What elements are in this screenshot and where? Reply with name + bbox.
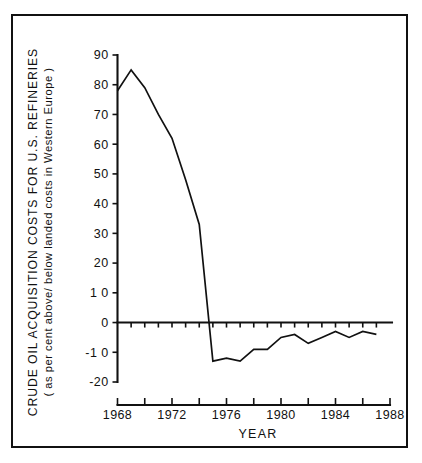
axes-group — [118, 55, 393, 405]
x-tick-group: 196819721976198019841988 — [103, 323, 405, 422]
y-tick-label: 90 — [94, 48, 109, 62]
x-tick-label: 1980 — [266, 408, 295, 422]
chart-canvas: CRUDE OIL ACQUISITION COSTS FOR U.S. REF… — [0, 0, 422, 463]
y-tick-label: 0 — [101, 316, 108, 330]
y-tick-label: 30 — [94, 227, 109, 241]
y-tick-label: 50 — [94, 167, 109, 181]
y-axis-label-line1: CRUDE OIL ACQUISITION COSTS FOR U.S. REF… — [26, 48, 40, 416]
x-tick-label: 1984 — [321, 408, 350, 422]
y-tick-group: 90807060504030201 00-1 0-20 — [85, 48, 117, 389]
y-tick-label: -1 0 — [85, 346, 108, 360]
data-series-group — [118, 70, 377, 361]
x-tick-label: 1976 — [212, 408, 241, 422]
y-tick-label: 60 — [94, 138, 109, 152]
x-axis-label: YEAR — [239, 427, 278, 441]
data-series-line — [118, 70, 377, 361]
y-tick-label: 80 — [94, 78, 109, 92]
y-tick-label: 20 — [94, 256, 109, 270]
y-tick-label: 70 — [94, 108, 109, 122]
y-tick-label: -20 — [89, 375, 108, 389]
y-tick-label: 40 — [94, 197, 109, 211]
x-tick-label: 1972 — [157, 408, 186, 422]
x-tick-label: 1968 — [103, 408, 132, 422]
y-axis-label-line2: ( as per cent above/ below landed costs … — [42, 67, 54, 396]
x-tick-label: 1988 — [375, 408, 404, 422]
figure-root: CRUDE OIL ACQUISITION COSTS FOR U.S. REF… — [0, 0, 422, 463]
y-tick-label: 1 0 — [90, 286, 109, 300]
y-axis-label: CRUDE OIL ACQUISITION COSTS FOR U.S. REF… — [26, 48, 54, 416]
